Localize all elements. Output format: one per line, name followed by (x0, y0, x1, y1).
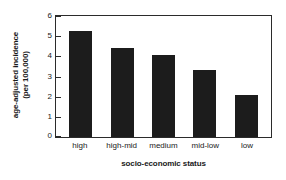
bar (111, 48, 134, 137)
x-axis-tick-label: medium (152, 141, 175, 153)
y-axis-tick-label: 4 (48, 52, 52, 60)
bar-chart-figure: age-adjusted incidence (per 100,000) 012… (0, 0, 286, 180)
y-axis-title-line2: (per 100,000) (21, 32, 31, 118)
x-axis-title: socio-economic status (55, 159, 272, 169)
x-axis-tick-label: high-mid (110, 141, 133, 153)
x-axis-tick-label: mid-low (194, 141, 217, 153)
y-axis-title-line1: age-adjusted incidence (11, 32, 20, 118)
y-axis-tick-label: 2 (48, 93, 52, 101)
bar (235, 95, 258, 137)
y-axis-title-text: age-adjusted incidence (per 100,000) (11, 32, 31, 118)
x-axis-tick-label-text: mid-low (192, 141, 220, 151)
bar (152, 55, 175, 137)
x-axis-tick-label-text: medium (149, 141, 177, 151)
y-axis-title: age-adjusted incidence (per 100,000) (0, 0, 42, 150)
x-axis-tick-label: high (68, 141, 91, 153)
x-axis-tick-label-text: high-mid (106, 141, 137, 151)
y-axis-tick-label: 3 (48, 73, 52, 81)
plot-area: 0123456 (55, 15, 272, 138)
x-axis-tick-label: low (236, 141, 259, 153)
x-axis-tick-labels: highhigh-midmediummid-lowlow (55, 141, 272, 153)
y-axis-tick-label: 1 (48, 113, 52, 121)
x-axis-tick-label-text: low (241, 141, 253, 151)
x-axis-tick-label-text: high (72, 141, 87, 151)
y-axis-tick-label: 5 (48, 32, 52, 40)
bar-series (56, 16, 271, 137)
y-axis-tick-label: 0 (48, 132, 52, 140)
bar (69, 31, 92, 137)
bar (193, 70, 216, 137)
y-axis-tick-label: 6 (48, 12, 52, 20)
